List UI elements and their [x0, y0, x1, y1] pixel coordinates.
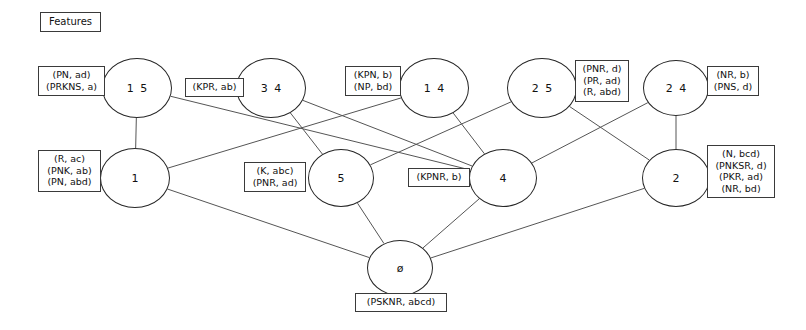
attribute-box-n15: (PN, ad)(PRKNS, a) [38, 66, 105, 96]
attribute-line: (NP, bd) [349, 81, 397, 93]
node-label-n14: 1 4 [422, 83, 446, 94]
edge-n15-n1 [136, 118, 137, 148]
attribute-box-n25: (PNR, d)(PR, ad)(R, abd) [575, 60, 629, 102]
node-n34[interactable]: 3 4 [236, 58, 306, 118]
attribute-box-n0: (PSKNR, abcd) [355, 293, 447, 312]
concept-lattice-diagram: Features 1 53 41 42 52 41542ø (PN, ad)(P… [0, 0, 806, 330]
attribute-box-n34: (KPR, ab) [185, 78, 244, 97]
attribute-line: (PNK, ab) [42, 165, 97, 177]
attribute-box-n5: (K, abc)(PNR, ad) [244, 162, 306, 192]
attribute-line: (K, abc) [248, 165, 302, 177]
attribute-line: (R, ac) [42, 153, 97, 165]
node-label-n24: 2 4 [664, 83, 688, 94]
attribute-box-n14: (KPN, b)(NP, bd) [345, 66, 401, 96]
attribute-line: (PR, ad) [579, 75, 625, 87]
node-n15[interactable]: 1 5 [102, 58, 172, 118]
attribute-line: (PNR, ad) [248, 177, 302, 189]
attribute-line: (NR, b) [711, 69, 755, 81]
edge-n14-n4 [453, 113, 484, 154]
attribute-line: (PSKNR, abcd) [359, 296, 443, 308]
features-title-label: Features [49, 16, 92, 27]
attribute-line: (R, abd) [579, 86, 625, 98]
node-label-n4: 4 [498, 173, 508, 184]
attribute-line: (PRKNS, a) [42, 81, 101, 93]
node-label-n15: 1 5 [125, 83, 149, 94]
attribute-line: (KPR, ab) [189, 81, 240, 93]
attribute-line: (PN, ad) [42, 69, 101, 81]
attribute-box-n1: (R, ac)(PNK, ab)(PN, abd) [38, 150, 101, 192]
node-label-n34: 3 4 [259, 83, 283, 94]
node-n14[interactable]: 1 4 [399, 58, 469, 118]
node-label-n0: ø [395, 263, 405, 274]
attribute-line: (NR, bd) [711, 183, 771, 195]
attribute-line: (PNR, d) [579, 63, 625, 75]
features-title-box: Features [40, 12, 101, 32]
node-n25[interactable]: 2 5 [507, 58, 577, 118]
edge-n5-n0 [357, 203, 383, 243]
attribute-line: (KPNR, b) [412, 171, 466, 183]
attribute-box-n4: (KPNR, b) [408, 168, 470, 187]
node-n5[interactable]: 5 [308, 149, 374, 207]
node-n0[interactable]: ø [367, 240, 433, 296]
attribute-line: (PN, abd) [42, 176, 97, 188]
attribute-line: (N, bcd) [711, 148, 771, 160]
edge-n25-n2 [570, 107, 650, 161]
attribute-line: (PNS, d) [711, 81, 755, 93]
attribute-box-n24: (NR, b)(PNS, d) [707, 66, 759, 96]
node-n1[interactable]: 1 [100, 148, 170, 208]
edge-n34-n5 [290, 113, 322, 154]
attribute-line: (KPN, b) [349, 69, 397, 81]
node-label-n5: 5 [336, 173, 346, 184]
node-label-n1: 1 [130, 173, 140, 184]
attribute-line: (PKR, ad) [711, 171, 771, 183]
attribute-box-n2: (N, bcd)(PNKSR, d)(PKR, ad)(NR, bd) [707, 145, 775, 198]
node-n24[interactable]: 2 4 [643, 60, 709, 116]
node-n4[interactable]: 4 [469, 149, 537, 207]
edge-n4-n0 [423, 199, 479, 248]
node-label-n2: 2 [671, 173, 681, 184]
node-label-n25: 2 5 [530, 83, 554, 94]
attribute-line: (PNKSR, d) [711, 160, 771, 172]
edge-n2-n0 [431, 188, 644, 258]
node-n2[interactable]: 2 [642, 149, 710, 207]
